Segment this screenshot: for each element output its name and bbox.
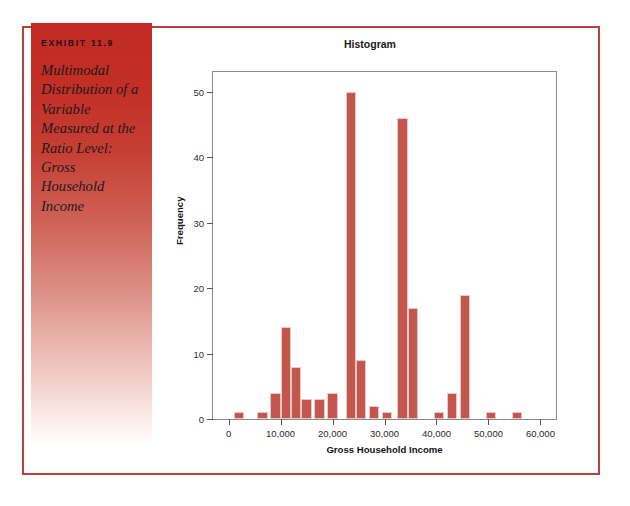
histogram-bar xyxy=(434,412,444,419)
histogram-bar xyxy=(327,393,337,419)
y-tick-label: 10 xyxy=(193,348,204,359)
y-tick-label: 0 xyxy=(199,414,204,425)
x-tick-label: 30,000 xyxy=(370,428,399,439)
histogram-bar xyxy=(460,295,470,419)
y-tick-mark xyxy=(207,157,213,158)
chart-title: Histogram xyxy=(190,38,550,50)
histogram-bar xyxy=(369,406,379,419)
histogram-bar xyxy=(356,360,366,419)
histogram-bar xyxy=(397,118,407,419)
y-axis-title: Frequency xyxy=(174,196,185,245)
bar-series xyxy=(213,72,556,419)
exhibit-page: EXHIBIT 11.9 Multimodal Distribution of … xyxy=(0,0,630,506)
x-tick-label: 50,000 xyxy=(474,428,503,439)
histogram-bar xyxy=(314,399,324,419)
exhibit-title-text: Multimodal Distribution of a Variable Me… xyxy=(41,61,142,216)
x-tick-mark xyxy=(540,419,541,425)
y-tick-mark xyxy=(207,288,213,289)
y-tick-mark xyxy=(207,354,213,355)
x-tick-mark xyxy=(229,419,230,425)
histogram-bar xyxy=(346,92,356,419)
histogram-bar xyxy=(408,308,418,419)
plot-area: 01020304050 010,00020,00030,00040,00050,… xyxy=(212,71,557,420)
y-tick-label: 40 xyxy=(193,152,204,163)
exhibit-caption-inner: EXHIBIT 11.9 Multimodal Distribution of … xyxy=(41,38,142,216)
histogram-bar xyxy=(382,412,392,419)
x-tick-mark xyxy=(333,419,334,425)
histogram-chart: Histogram Frequency 01020304050 010,0002… xyxy=(190,33,582,453)
x-tick-label: 60,000 xyxy=(526,428,555,439)
histogram-bar xyxy=(281,327,291,419)
y-tick-label: 50 xyxy=(193,86,204,97)
x-tick-label: 20,000 xyxy=(318,428,347,439)
histogram-bar xyxy=(486,412,496,419)
histogram-bar xyxy=(257,412,267,419)
histogram-bar xyxy=(447,393,457,419)
exhibit-caption-panel: EXHIBIT 11.9 Multimodal Distribution of … xyxy=(31,23,152,457)
x-tick-mark xyxy=(436,419,437,425)
x-tick-label: 10,000 xyxy=(266,428,295,439)
x-tick-mark xyxy=(281,419,282,425)
x-tick-label: 40,000 xyxy=(422,428,451,439)
exhibit-number-label: EXHIBIT 11.9 xyxy=(41,38,142,48)
y-tick-mark xyxy=(207,223,213,224)
y-tick-mark xyxy=(207,419,213,420)
histogram-bar xyxy=(301,399,311,419)
histogram-bar xyxy=(234,412,244,419)
x-tick-mark xyxy=(488,419,489,425)
x-tick-label: 0 xyxy=(226,428,231,439)
y-tick-label: 30 xyxy=(193,217,204,228)
x-tick-mark xyxy=(385,419,386,425)
histogram-bar xyxy=(270,393,280,419)
histogram-bar xyxy=(291,367,301,419)
histogram-bar xyxy=(512,412,522,419)
x-axis-title: Gross Household Income xyxy=(212,444,557,455)
y-tick-mark xyxy=(207,92,213,93)
y-tick-label: 20 xyxy=(193,283,204,294)
